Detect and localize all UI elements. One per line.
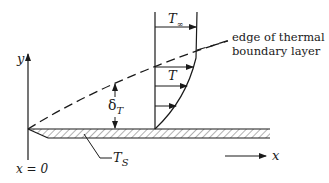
y-axis-label: y [17,52,24,65]
local-temp-label: T [168,69,177,82]
boundary-edge-caption-line1: edge of thermal [232,30,325,44]
free-stream-temp-symbol: T [168,11,177,26]
surface-temp-subscript: S [122,157,129,168]
origin-label: x = 0 [16,163,48,175]
origin-label-text: x = 0 [16,162,48,176]
free-stream-temp-label: T∞ [168,12,183,29]
free-stream-temp-subscript: ∞ [177,20,184,29]
thickness-subscript: T [116,105,123,116]
edge-label-leader [197,41,228,50]
boundary-edge-caption-line2: boundary layer [232,44,325,58]
diagram-canvas [0,0,329,183]
surface-temp-symbol: T [113,150,122,165]
flat-plate [28,129,270,138]
x-axis-label: x [272,149,279,162]
thermal-boundary-edge-curve [28,40,230,129]
thickness-label: δT [108,98,123,116]
surface-temp-label: TS [113,151,129,168]
boundary-edge-caption: edge of thermal boundary layer [232,30,325,58]
